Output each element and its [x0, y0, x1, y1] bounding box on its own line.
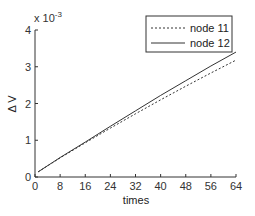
- y-tick-label: 1: [25, 134, 31, 146]
- x-tick-label: 0: [32, 180, 38, 192]
- y-axis-label: Δ V: [6, 95, 18, 113]
- line-chart: 0816243240485664 01234 x 10-3 Δ V times …: [0, 0, 255, 216]
- x-tick-label: 24: [104, 180, 116, 192]
- x-tick-label: 40: [155, 180, 167, 192]
- y-tick-label: 2: [25, 98, 31, 110]
- y-tick-label: 3: [25, 61, 31, 73]
- y-tick-label: 4: [25, 24, 31, 36]
- series-line-node-11: [38, 60, 236, 172]
- y-multiplier: x 10-3: [34, 10, 62, 24]
- x-axis-label: times: [123, 194, 150, 206]
- x-tick-label: 56: [205, 180, 217, 192]
- y-ticks: 01234: [25, 24, 38, 183]
- x-tick-label: 8: [57, 180, 63, 192]
- x-tick-label: 32: [129, 180, 141, 192]
- legend: node 11 node 12: [146, 16, 232, 52]
- y-tick-label: 0: [25, 171, 31, 183]
- series-group: [38, 52, 236, 172]
- legend-label-node-11: node 11: [190, 22, 229, 34]
- legend-label-node-12: node 12: [190, 37, 230, 49]
- x-tick-label: 64: [230, 180, 242, 192]
- x-tick-label: 16: [79, 180, 91, 192]
- x-tick-label: 48: [180, 180, 192, 192]
- series-line-node-12: [38, 52, 236, 172]
